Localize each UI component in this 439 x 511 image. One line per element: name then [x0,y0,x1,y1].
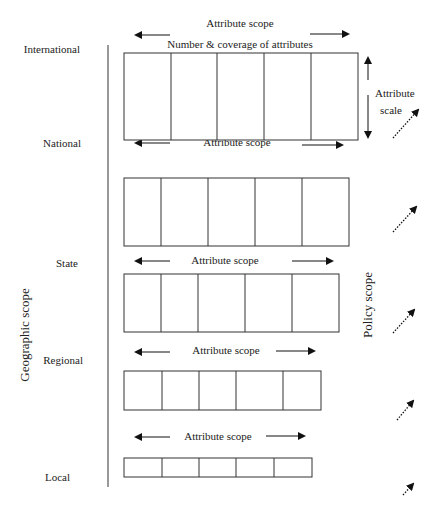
policy-arrow-4 [397,401,413,420]
attribute-scale-label-2: scale [380,104,402,116]
policy-scope-label: Policy scope [360,272,375,338]
policy-arrow-2 [393,207,416,232]
top-attribute-scope-label: Attribute scope [206,17,274,29]
scope-label-local: Attribute scope [184,430,252,442]
attribute-scale-label-1: Attribute [375,87,415,99]
geographic-scope-label: Geographic scope [17,288,32,382]
policy-arrow-5 [403,484,413,495]
attribute-box-national [124,178,349,246]
level-label-state: State [56,257,78,269]
scope-label-regional: Attribute scope [192,344,260,356]
geographic-policy-scope-diagram: Geographic scope Policy scope Attribute … [0,0,439,511]
policy-arrow-3 [393,310,414,333]
level-label-regional: Regional [43,354,83,366]
attribute-box-local [124,458,312,477]
level-label-national: National [43,137,81,149]
attribute-box-regional [124,371,321,410]
number-coverage-label: Number & coverage of attributes [167,38,312,50]
attribute-box-international [124,53,358,140]
scope-label-state: Attribute scope [191,254,259,266]
level-label-international: International [24,43,80,55]
level-label-local: Local [45,471,70,483]
attribute-box-state [124,274,339,332]
